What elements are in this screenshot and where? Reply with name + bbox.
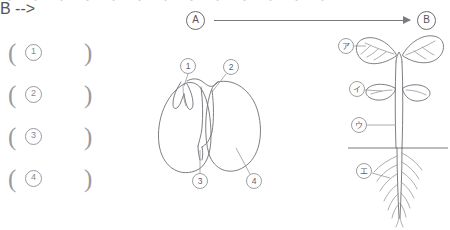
seedling-cotyledon-left [366, 84, 395, 100]
seed-radicle-tip-2 [202, 147, 203, 160]
callout-label-a: ア [342, 42, 350, 51]
seedling-root-hair [401, 193, 410, 208]
open-paren: ( [8, 82, 16, 107]
callout-label-2: 2 [229, 62, 234, 72]
seed-diagram: 1 2 3 4 [140, 50, 290, 200]
seedling-root-hair [388, 194, 398, 210]
seedling-cotyledon-right-vein [406, 90, 426, 95]
callout-leader-2 [212, 74, 226, 92]
seedling-root-hair [384, 184, 398, 201]
blank-number-3: 3 [25, 128, 42, 145]
answer-blank-list: ( 1 ) ( 2 ) ( 3 ) ( 4 ) [6, 40, 102, 208]
answer-blank-row[interactable]: ( 2 ) [6, 82, 102, 124]
callout-label-u: ウ [355, 121, 363, 130]
seedling-diagram: ア イ ウ エ [330, 26, 450, 230]
callout-label-i: イ [353, 85, 361, 94]
callout-label-e: エ [360, 167, 368, 176]
seed-cotyledon-right [206, 81, 261, 171]
stage-label-a: A [186, 11, 205, 30]
worksheet-canvas: ・ ・ ・ ・ ・ ・ ・ ・ ・ ・ ・ ・ ・ B --> A B ( 1 … [0, 0, 450, 230]
seedling-leaf-right-vein [414, 51, 426, 59]
callout-label-4: 4 [252, 176, 257, 186]
callout-label-3: 3 [198, 176, 203, 186]
seedling-taproot [397, 148, 399, 218]
seedling-leaf-left-vein [361, 46, 370, 54]
seedling-leaf-left-vein [367, 49, 378, 57]
blank-number-4: 4 [25, 170, 42, 187]
seedling-shoot-apex [396, 52, 402, 62]
seedling-leaf-left-midrib [365, 43, 394, 54]
right-arrow-icon [214, 20, 410, 21]
seedling-root-tip [396, 218, 399, 227]
clipped-top-text: ・ ・ ・ ・ ・ ・ ・ ・ ・ ・ ・ ・ ・ [4, 0, 334, 7]
seedling-root-hair [380, 174, 397, 191]
callout-leader-i [365, 90, 382, 91]
answer-blank-row[interactable]: ( 1 ) [6, 40, 102, 82]
seed-plumule [173, 82, 184, 108]
clipped-top-text-strip: ・ ・ ・ ・ ・ ・ ・ ・ ・ ・ ・ ・ ・ [0, 0, 450, 7]
seedling-stem-left [395, 62, 396, 148]
seedling-leaf-left-vein [374, 52, 386, 60]
seedling-true-leaf-right [403, 36, 444, 63]
seedling-root-hair [402, 162, 419, 179]
seedling-root-hair [374, 156, 397, 172]
callout-leader-e [372, 173, 390, 178]
close-paren: ) [84, 82, 92, 107]
seedling-root-hair [377, 165, 397, 181]
open-paren: ( [8, 124, 16, 149]
seedling-root-tip [400, 218, 403, 227]
seedling-root-hair [402, 172, 417, 189]
open-paren: ( [8, 40, 16, 65]
seedling-stem-right [402, 62, 403, 148]
answer-blank-row[interactable]: ( 4 ) [6, 166, 102, 208]
seedling-root-hair [392, 204, 399, 218]
blank-number-2: 2 [25, 86, 42, 103]
seed-hypocotyl [198, 87, 203, 146]
close-paren: ) [84, 166, 92, 191]
seedling-taproot-2 [400, 148, 402, 218]
seedling-root-hair [402, 153, 422, 170]
seedling-leaf-right-vein [422, 47, 434, 55]
open-paren: ( [8, 166, 16, 191]
seedling-cotyledon-right [403, 85, 430, 101]
seed-hypocotyl-edge [202, 90, 214, 147]
callout-label-1: 1 [186, 61, 191, 71]
close-paren: ) [84, 40, 92, 65]
answer-blank-row[interactable]: ( 3 ) [6, 124, 102, 166]
close-paren: ) [84, 124, 92, 149]
seed-plumule-fold [184, 84, 193, 109]
blank-number-1: 1 [25, 44, 42, 61]
